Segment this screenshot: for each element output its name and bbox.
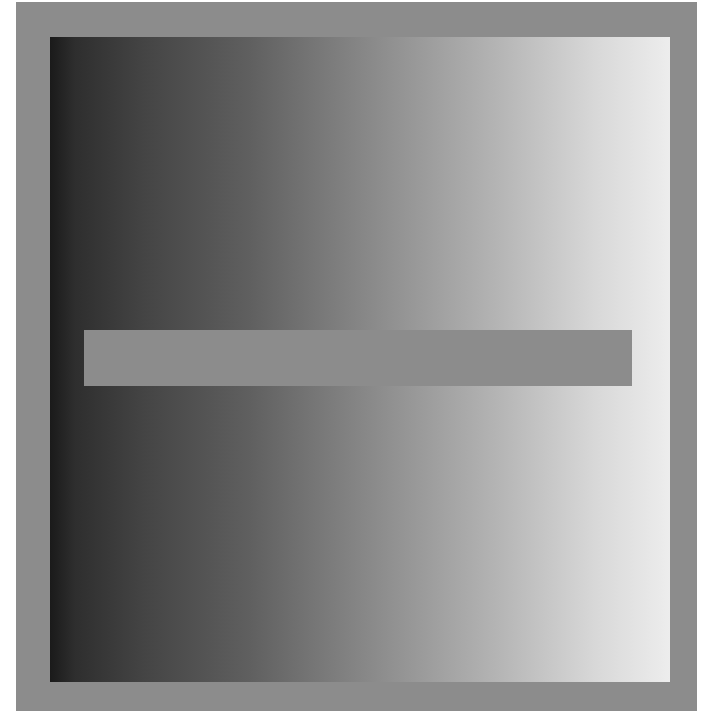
uniform-gray-bar [84,330,632,386]
